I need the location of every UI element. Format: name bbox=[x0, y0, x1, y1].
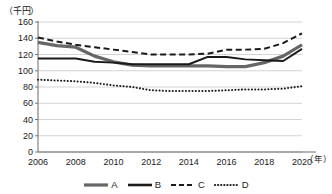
svg-text:60: 60 bbox=[23, 98, 33, 108]
legend-item-d: D bbox=[214, 180, 249, 190]
legend-swatch-c bbox=[170, 180, 196, 190]
svg-text:2012: 2012 bbox=[141, 157, 161, 167]
svg-text:2018: 2018 bbox=[254, 157, 274, 167]
legend-item-c: C bbox=[170, 180, 205, 190]
gridlines bbox=[38, 22, 302, 152]
line-chart: （千円） 020406080100120140160 2006200820102… bbox=[0, 0, 332, 194]
legend-swatch-a bbox=[83, 180, 109, 190]
svg-text:2016: 2016 bbox=[217, 157, 237, 167]
svg-text:2014: 2014 bbox=[179, 157, 199, 167]
x-axis-tick-labels: 20062008201020122014201620182020 bbox=[28, 157, 312, 167]
svg-text:2010: 2010 bbox=[103, 157, 123, 167]
svg-text:40: 40 bbox=[23, 115, 33, 125]
legend-label-a: A bbox=[111, 180, 117, 190]
svg-text:2006: 2006 bbox=[28, 157, 48, 167]
y-axis-tick-labels: 020406080100120140160 bbox=[18, 17, 33, 157]
svg-text:120: 120 bbox=[18, 50, 33, 60]
data-series-group bbox=[38, 33, 302, 91]
svg-text:20: 20 bbox=[23, 131, 33, 141]
svg-text:140: 140 bbox=[18, 33, 33, 43]
series-line-d bbox=[38, 80, 302, 91]
legend-swatch-b bbox=[127, 180, 153, 190]
svg-text:0: 0 bbox=[28, 147, 33, 157]
svg-text:2008: 2008 bbox=[66, 157, 86, 167]
axis-lines bbox=[35, 21, 316, 152]
svg-text:100: 100 bbox=[18, 66, 33, 76]
legend-swatch-d bbox=[214, 180, 240, 190]
x-axis-unit-label: （年） bbox=[305, 152, 332, 164]
legend-label-d: D bbox=[242, 180, 249, 190]
svg-text:160: 160 bbox=[18, 17, 33, 27]
chart-plot-area: 020406080100120140160 200620082010201220… bbox=[0, 0, 332, 194]
svg-text:80: 80 bbox=[23, 82, 33, 92]
legend-label-c: C bbox=[198, 180, 205, 190]
legend-item-a: A bbox=[83, 180, 117, 190]
series-line-c bbox=[38, 33, 302, 54]
legend-label-b: B bbox=[155, 180, 161, 190]
chart-legend: A B C D bbox=[0, 180, 332, 190]
legend-item-b: B bbox=[127, 180, 161, 190]
